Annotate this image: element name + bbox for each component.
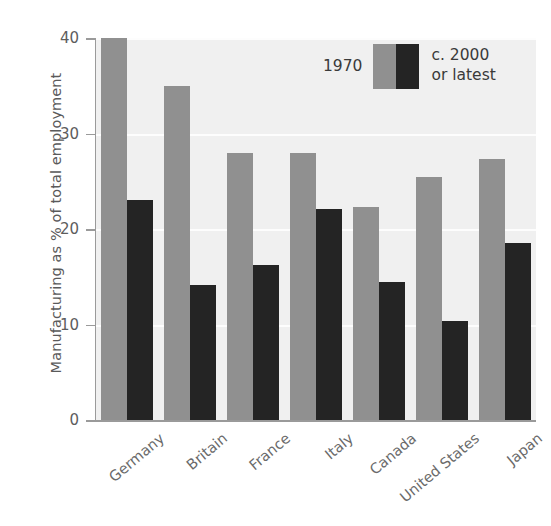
gridline-30 bbox=[96, 134, 536, 136]
y-tick-mark-20 bbox=[86, 229, 96, 231]
bar-france-1970 bbox=[227, 153, 253, 420]
bar-italy-1970 bbox=[290, 153, 316, 420]
bar-britain-c2000 bbox=[190, 285, 216, 420]
bar-japan-1970 bbox=[479, 159, 505, 420]
x-axis-label-france: France bbox=[246, 430, 293, 473]
bar-chart: Manufacturing as % of total employment 0… bbox=[0, 0, 551, 526]
bar-france-c2000 bbox=[253, 265, 279, 420]
bar-united-states-c2000 bbox=[442, 321, 468, 420]
bar-canada-c2000 bbox=[379, 282, 405, 420]
legend-label-c2000: c. 2000 or latest bbox=[431, 46, 495, 86]
y-tick-label-20: 20 bbox=[19, 220, 79, 238]
plot-area bbox=[96, 38, 536, 420]
y-tick-label-0: 0 bbox=[19, 411, 79, 429]
bar-germany-1970 bbox=[101, 38, 127, 420]
x-axis-label-japan: Japan bbox=[504, 430, 545, 468]
x-axis-line bbox=[95, 420, 536, 422]
legend-label-1970: 1970 bbox=[323, 57, 362, 75]
y-tick-mark-10 bbox=[86, 325, 96, 327]
legend-label-c2000-line2: or latest bbox=[431, 66, 495, 84]
x-axis-label-canada: Canada bbox=[367, 430, 420, 478]
bar-britain-1970 bbox=[164, 86, 190, 420]
x-axis-label-britain: Britain bbox=[184, 430, 231, 473]
y-tick-mark-30 bbox=[86, 134, 96, 136]
legend-swatch-1970 bbox=[373, 44, 396, 89]
x-axis-label-italy: Italy bbox=[322, 430, 356, 462]
y-tick-label-30: 30 bbox=[19, 125, 79, 143]
y-tick-mark-40 bbox=[86, 38, 96, 40]
bar-italy-c2000 bbox=[316, 209, 342, 420]
y-tick-label-10: 10 bbox=[19, 316, 79, 334]
bar-germany-c2000 bbox=[127, 200, 153, 420]
y-tick-mark-0 bbox=[86, 420, 96, 422]
legend-swatch-c2000 bbox=[396, 44, 419, 89]
bar-united-states-1970 bbox=[416, 177, 442, 420]
bar-canada-1970 bbox=[353, 207, 379, 420]
legend: 1970 c. 2000 or latest bbox=[323, 38, 496, 94]
legend-label-c2000-line1: c. 2000 bbox=[431, 46, 489, 64]
x-axis-label-germany: Germany bbox=[106, 430, 167, 485]
bar-japan-c2000 bbox=[505, 243, 531, 420]
y-tick-label-40: 40 bbox=[19, 29, 79, 47]
